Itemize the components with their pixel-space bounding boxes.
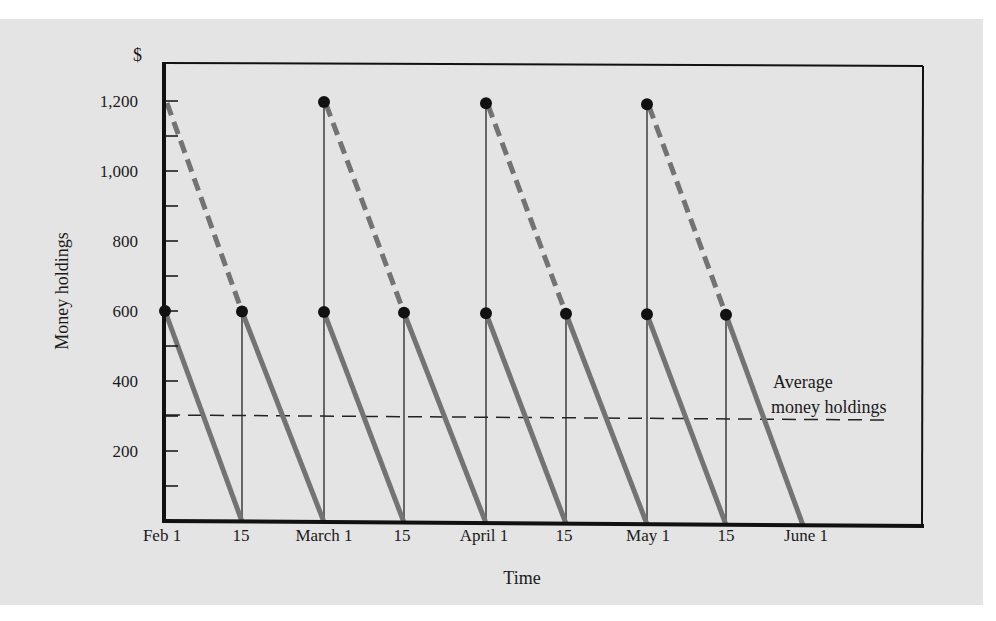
sawtooth-segment	[242, 312, 324, 523]
x-tick-label: March 1	[295, 526, 352, 545]
currency-label: $	[133, 45, 142, 65]
data-point-600	[560, 308, 572, 320]
x-tick-label: 15	[394, 526, 411, 545]
data-point-markers	[159, 96, 732, 321]
dashed-segment	[488, 105, 566, 314]
data-point-1200	[480, 97, 492, 109]
dashed-segment	[167, 103, 242, 312]
sawtooth-segment	[404, 313, 486, 524]
x-tick-label: Feb 1	[143, 526, 181, 545]
y-tick-label: 800	[113, 232, 139, 251]
y-tick-label: 400	[113, 372, 139, 391]
dashed-segment	[649, 106, 726, 315]
plot-frame	[164, 63, 923, 526]
y-tick-label: 600	[113, 302, 139, 321]
data-point-600	[720, 309, 732, 321]
x-axis-title: Time	[503, 568, 540, 588]
y-tick-label: 1,000	[100, 162, 138, 181]
money-holdings-chart: $ 2004006008001,0001,200 Feb 115March 11…	[0, 0, 996, 621]
data-point-600	[236, 306, 248, 318]
data-point-1200	[318, 96, 330, 108]
sawtooth-segment	[486, 313, 566, 524]
monthly-pay-series	[167, 103, 726, 315]
data-point-600	[480, 307, 492, 319]
data-point-600	[318, 306, 330, 318]
annotation-money-holdings: money holdings	[771, 397, 887, 417]
x-tick-label: 15	[556, 526, 573, 545]
data-point-600	[398, 307, 410, 319]
y-tick-labels: 2004006008001,0001,200	[100, 92, 138, 461]
x-tick-label: 15	[718, 526, 735, 545]
dashed-segment	[326, 104, 404, 313]
x-tick-label: May 1	[626, 526, 670, 545]
y-axis-title: Money holdings	[52, 232, 72, 350]
sawtooth-segment	[647, 314, 726, 525]
y-tick-label: 1,200	[100, 92, 138, 111]
data-point-1200	[641, 98, 653, 110]
x-tick-label: April 1	[460, 526, 509, 545]
data-point-600	[641, 308, 653, 320]
x-tick-labels: Feb 115March 115April 115May 115June 1	[143, 526, 828, 545]
x-tick-label: June 1	[784, 526, 828, 545]
x-tick-label: 15	[233, 526, 250, 545]
annotation-average: Average	[773, 372, 833, 392]
sawtooth-segment	[324, 312, 404, 523]
y-tick-label: 200	[113, 442, 139, 461]
y-axis-ticks	[164, 101, 178, 486]
